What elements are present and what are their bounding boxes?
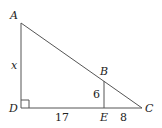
label-C: C	[145, 102, 154, 115]
geometry-diagram: A B C D E x 6 17 8	[0, 0, 162, 128]
measure-DE: 17	[55, 111, 69, 124]
label-B: B	[99, 65, 108, 78]
segment-AC	[21, 23, 142, 108]
measure-BE: 6	[93, 88, 100, 101]
label-E: E	[99, 111, 108, 124]
measure-AD: x	[11, 59, 18, 72]
measure-EC: 8	[120, 111, 127, 124]
label-A: A	[9, 9, 18, 22]
right-angle-mark	[21, 100, 29, 108]
label-D: D	[8, 102, 18, 115]
